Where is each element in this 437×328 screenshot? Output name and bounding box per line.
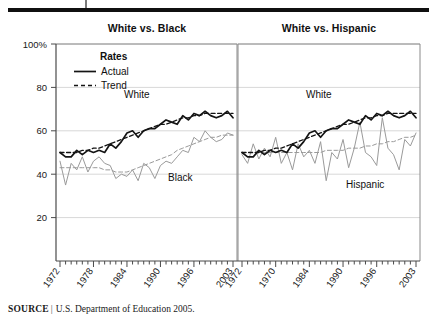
xtick-label-0-2: 1984 (107, 266, 128, 290)
xtick-label-1-5: 2003 (397, 266, 418, 290)
chart-plot-area: 100%80604020197219781984199019962003Whit… (0, 18, 437, 298)
series-hispanic-actual-panel-1 (242, 118, 416, 181)
ytick-label-60: 60 (36, 125, 47, 136)
source-keyword: SOURCE (8, 304, 49, 314)
source-note: SOURCE|U.S. Department of Education 2005… (8, 304, 428, 314)
top-rule (8, 8, 429, 12)
source-separator: | (51, 304, 53, 314)
legend-label-trend: Trend (101, 80, 127, 91)
ytick-label-20: 20 (36, 212, 47, 223)
xtick-label-0-4: 1996 (174, 266, 195, 290)
legend-label-actual: Actual (101, 66, 129, 77)
xtick-label-0-1: 1978 (74, 266, 95, 290)
legend-title: Rates (100, 51, 128, 62)
xtick-label-0-0: 1972 (41, 266, 62, 290)
source-text: U.S. Department of Education 2005. (56, 304, 195, 314)
top-rule-container (0, 0, 437, 18)
series-annotation-white-panel-1: White (306, 89, 332, 100)
chart-figure: White vs. Black White vs. Hispanic 100%8… (0, 18, 437, 298)
ytick-label-40: 40 (36, 169, 47, 180)
series-annotation-black-panel-0: Black (168, 172, 193, 183)
series-annotation-white-panel-0: White (124, 89, 150, 100)
series-annotation-hispanic-panel-1: Hispanic (346, 179, 384, 190)
xtick-label-1-1: 1970 (256, 266, 277, 290)
xtick-label-0-3: 1990 (141, 266, 162, 290)
xtick-label-1-3: 1990 (324, 266, 345, 290)
top-rule-stub (85, 0, 87, 8)
ytick-label-100: 100% (23, 39, 48, 50)
xtick-label-1-2: 1984 (290, 266, 311, 290)
ytick-label-80: 80 (36, 82, 47, 93)
xtick-label-1-4: 1996 (357, 266, 378, 290)
series-white-trend-panel-1 (242, 113, 416, 152)
